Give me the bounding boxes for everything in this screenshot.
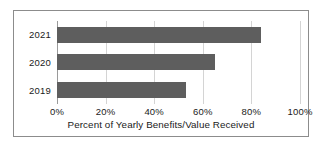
bar-row: 2019 [57, 76, 300, 104]
x-tick-label: 0% [50, 106, 64, 117]
category-label-2019: 2019 [29, 85, 51, 96]
category-label-2020: 2020 [29, 57, 51, 68]
x-axis-title: Percent of Yearly Benefits/Value Receive… [14, 119, 308, 130]
x-tick-label: 60% [193, 106, 213, 117]
bar-2020 [57, 54, 215, 70]
x-tick-label: 40% [144, 106, 164, 117]
chart-frame: 2021 2020 2019 0%20%40%60%80%100% Percen… [13, 10, 309, 137]
bar-row: 2020 [57, 49, 300, 77]
category-label-2021: 2021 [29, 29, 51, 40]
x-tick-label: 100% [287, 106, 312, 117]
x-tick-label: 20% [96, 106, 116, 117]
x-axis-tick-labels: 0%20%40%60%80%100% [57, 106, 300, 119]
gridline [300, 21, 301, 104]
bar-row: 2021 [57, 21, 300, 49]
bar-2021 [57, 27, 261, 43]
plot-area: 2021 2020 2019 [57, 21, 300, 104]
bar-2019 [57, 82, 186, 98]
x-tick-label: 80% [242, 106, 262, 117]
